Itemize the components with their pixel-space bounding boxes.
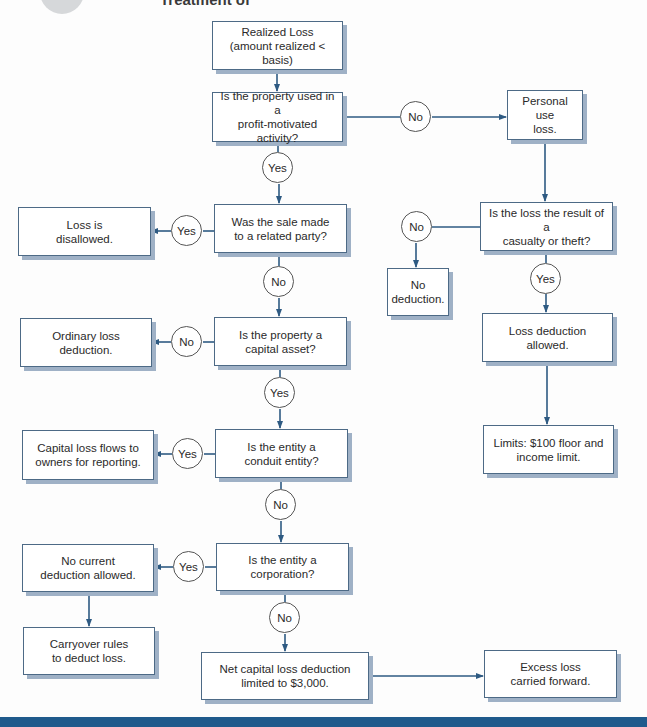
node-limits: Limits: $100 floor and income limit.	[483, 425, 614, 474]
label-capital-no: No	[171, 326, 202, 357]
label-related-no: No	[263, 266, 294, 297]
node-text: Personal use loss.	[514, 94, 576, 136]
node-text: Net capital loss deduction limited to $3…	[219, 662, 350, 690]
node-text: Was the sale made to a related party?	[231, 215, 329, 243]
node-text: Carryover rules to deduct loss.	[50, 637, 129, 665]
node-text: Is the property a capital asset?	[239, 328, 322, 356]
node-text: Is the loss the result of a casualty or …	[487, 206, 606, 248]
label-corp-no: No	[269, 602, 300, 633]
label-casualty-yes: Yes	[530, 263, 561, 294]
node-text: Is the property used in a profit-motivat…	[219, 89, 336, 145]
node-corporation-question: Is the entity a corporation?	[216, 543, 349, 591]
node-no-deduction: No deduction.	[387, 268, 449, 316]
label-casualty-no: No	[401, 211, 432, 242]
node-profit-question: Is the property used in a profit-motivat…	[212, 92, 343, 142]
node-ordinary-loss: Ordinary loss deduction.	[20, 318, 152, 367]
node-text: Loss deduction allowed.	[509, 324, 586, 352]
node-text: Is the entity a conduit entity?	[244, 440, 318, 468]
node-conduit-question: Is the entity a conduit entity?	[215, 429, 348, 478]
label-related-yes: Yes	[171, 215, 202, 246]
node-no-current-deduction: No current deduction allowed.	[22, 544, 154, 592]
node-capital-loss-flows: Capital loss flows to owners for reporti…	[22, 430, 154, 480]
node-text: Loss is disallowed.	[56, 218, 113, 246]
node-personal-use-loss: Personal use loss.	[507, 90, 583, 140]
node-capital-asset-question: Is the property a capital asset?	[214, 317, 347, 366]
node-text: Capital loss flows to owners for reporti…	[35, 441, 140, 469]
label-profit-yes: Yes	[262, 152, 293, 183]
label-conduit-no: No	[265, 489, 296, 520]
node-loss-deduction-allowed: Loss deduction allowed.	[482, 313, 613, 362]
bottom-rule	[0, 717, 647, 727]
node-text: Excess loss carried forward.	[511, 660, 591, 688]
node-realized-loss: Realized Loss (amount realized < basis)	[212, 21, 343, 70]
node-excess-loss: Excess loss carried forward.	[484, 650, 617, 698]
node-text: Ordinary loss deduction.	[52, 329, 120, 357]
label-conduit-yes: Yes	[172, 438, 203, 469]
label-capital-yes: Yes	[264, 377, 295, 408]
node-text: No deduction.	[391, 278, 444, 306]
node-related-party-question: Was the sale made to a related party?	[214, 204, 347, 253]
node-loss-disallowed: Loss is disallowed.	[18, 207, 151, 256]
node-text: Is the entity a corporation?	[248, 553, 316, 581]
node-casualty-question: Is the loss the result of a casualty or …	[480, 202, 613, 251]
node-text: Realized Loss (amount realized < basis)	[219, 25, 336, 67]
label-profit-no: No	[400, 101, 431, 132]
node-carryover-rules: Carryover rules to deduct loss.	[23, 627, 155, 675]
node-text: No current deduction allowed.	[40, 554, 135, 582]
label-corp-yes: Yes	[173, 551, 204, 582]
node-net-capital-loss: Net capital loss deduction limited to $3…	[201, 652, 369, 700]
node-text: Limits: $100 floor and income limit.	[494, 436, 604, 464]
